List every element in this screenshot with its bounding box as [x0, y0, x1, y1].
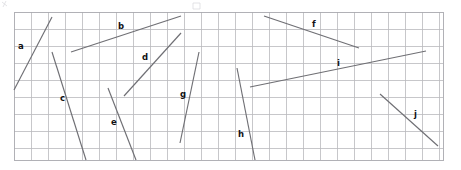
line-segment-c [52, 52, 86, 160]
line-segments-figure: abcdefghij [0, 0, 461, 170]
segment-label-j: j [413, 109, 417, 119]
segment-labels-group: abcdefghij [18, 19, 417, 139]
line-segment-a [14, 17, 52, 90]
segment-label-g: g [180, 89, 186, 99]
segment-label-h: h [238, 129, 244, 139]
segment-label-b: b [118, 21, 124, 31]
segment-label-a: a [18, 41, 24, 51]
segment-label-d: d [142, 52, 148, 62]
segment-label-i: i [337, 58, 340, 68]
line-segment-b [71, 16, 181, 52]
segment-label-f: f [312, 19, 316, 29]
scan-artifacts [2, 1, 200, 9]
segment-label-e: e [111, 117, 117, 127]
line-segment-i [250, 51, 426, 87]
segment-label-c: c [60, 93, 65, 103]
grid-lines [14, 12, 443, 160]
line-segment-j [380, 94, 438, 146]
line-segment-d [124, 33, 181, 96]
segments-group [14, 16, 438, 160]
grid-border [14, 12, 443, 160]
figure-canvas: abcdefghij [0, 0, 461, 170]
